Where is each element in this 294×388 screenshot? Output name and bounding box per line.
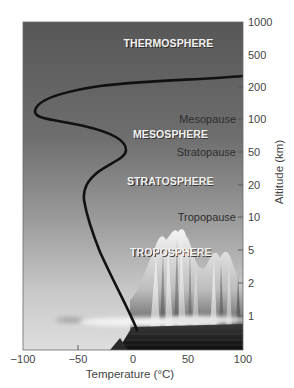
svg-text:5: 5 xyxy=(248,244,254,256)
layer-label-stratosphere: STRATOSPHERE STRATOSPHERE xyxy=(127,175,214,189)
tropopause-label: Tropopause xyxy=(178,211,236,223)
svg-text:10: 10 xyxy=(248,211,260,223)
x-axis-labels: −100 −50 0 50 100 xyxy=(11,353,253,365)
svg-text:1000: 1000 xyxy=(248,16,272,28)
svg-text:100: 100 xyxy=(234,353,252,365)
svg-text:1: 1 xyxy=(248,310,254,322)
layer-label-troposphere: TROPOSPHERE TROPOSPHERE xyxy=(130,246,212,260)
svg-text:50: 50 xyxy=(248,146,260,158)
svg-text:TROPOSPHERE: TROPOSPHERE xyxy=(130,246,212,258)
svg-text:−50: −50 xyxy=(69,353,88,365)
atmosphere-diagram: THERMOSPHERE THERMOSPHERE MESOSPHERE MES… xyxy=(0,0,294,388)
svg-text:2: 2 xyxy=(248,277,254,289)
svg-text:20: 20 xyxy=(248,179,260,191)
svg-text:−100: −100 xyxy=(11,353,36,365)
layer-label-mesosphere: MESOSPHERE MESOSPHERE xyxy=(133,128,209,142)
stratopause-label: Stratopause xyxy=(177,146,236,158)
mesopause-label: Mesopause xyxy=(179,113,236,125)
svg-text:THERMOSPHERE: THERMOSPHERE xyxy=(124,37,214,49)
svg-text:200: 200 xyxy=(248,81,266,93)
layer-label-thermosphere: THERMOSPHERE THERMOSPHERE xyxy=(124,37,214,51)
svg-text:MESOSPHERE: MESOSPHERE xyxy=(133,128,208,140)
svg-text:500: 500 xyxy=(248,49,266,61)
svg-text:50: 50 xyxy=(182,353,194,365)
y-axis-title: Altitude (km) xyxy=(273,140,285,205)
svg-text:STRATOSPHERE: STRATOSPHERE xyxy=(127,175,214,187)
svg-text:100: 100 xyxy=(248,113,266,125)
y-axis-labels: 1000 500 200 100 50 20 10 5 2 1 xyxy=(248,16,272,322)
x-axis-title: Temperature (°C) xyxy=(86,368,174,380)
svg-text:0: 0 xyxy=(130,353,136,365)
